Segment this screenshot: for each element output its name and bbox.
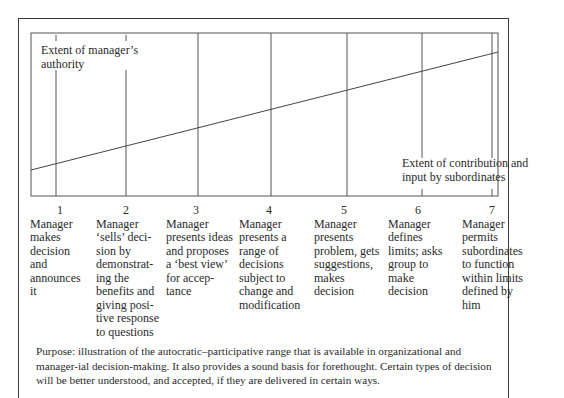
subordinate-contribution-label: Extent of contribution and input by subo… (402, 157, 528, 184)
style-column-1: 1 Manager makes decision and announces i… (30, 204, 90, 299)
column-description: Manager presents ideas and proposes a ‘b… (166, 218, 233, 299)
column-description: Manager presents a range of decisions su… (239, 218, 300, 313)
column-description: Manager defines limits; asks group to ma… (388, 218, 448, 299)
column-number: 5 (314, 204, 374, 218)
column-description: Manager makes decision and announces it (30, 218, 90, 299)
manager-authority-label: Extent of manager’s authority (41, 44, 138, 71)
column-number: 3 (166, 204, 226, 218)
column-number: 4 (239, 204, 299, 218)
column-number: 1 (30, 204, 90, 218)
column-number: 2 (96, 204, 156, 218)
style-column-7: 7 Manager permits subordinates to functi… (462, 204, 523, 312)
style-column-5: 5 Manager presents problem, gets suggest… (314, 204, 379, 299)
column-number: 6 (388, 204, 448, 218)
style-column-4: 4 Manager presents a range of decisions … (239, 204, 300, 312)
style-column-3: 3 Manager presents ideas and proposes a … (166, 204, 233, 299)
column-description: Manager ‘sells’ deci- sion by demonstrat… (96, 218, 159, 340)
style-column-2: 2 Manager ‘sells’ deci- sion by demonstr… (96, 204, 159, 339)
style-column-6: 6 Manager defines limits; asks group to … (388, 204, 448, 299)
column-description: Manager presents problem, gets suggestio… (314, 218, 379, 299)
column-number: 7 (462, 204, 522, 218)
purpose-caption: Purpose: illustration of the autocratic–… (36, 344, 502, 388)
column-description: Manager permits subordinates to function… (462, 218, 523, 313)
